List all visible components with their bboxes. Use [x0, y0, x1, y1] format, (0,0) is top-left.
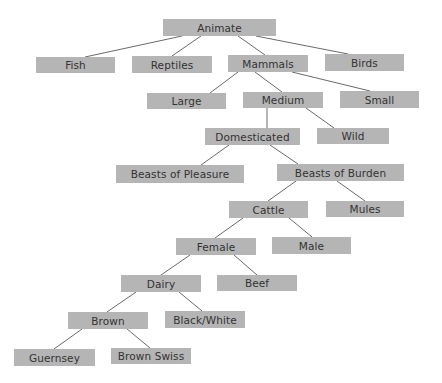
node-mammals: Mammals [228, 55, 308, 72]
edge-brown-to-guernsey [54, 329, 82, 349]
node-medium: Medium [243, 92, 323, 108]
node-black-white: Black/White [165, 311, 245, 328]
edge-beasts_burden-to-cattle [268, 181, 296, 201]
classification-tree-diagram: AnimateFishReptilesMammalsBirdsLargeMedi… [0, 0, 442, 383]
edge-animate-to-fish [85, 36, 182, 57]
node-mules: Mules [326, 201, 404, 217]
node-guernsey: Guernsey [14, 349, 95, 366]
node-birds: Birds [325, 54, 404, 71]
edge-female-to-beef [234, 255, 257, 275]
node-large: Large [147, 93, 226, 109]
node-fish: Fish [36, 57, 115, 73]
node-brown-swiss: Brown Swiss [111, 348, 191, 364]
edge-dairy-to-brown [107, 292, 136, 312]
node-cattle: Cattle [229, 201, 308, 218]
node-beasts-burden: Beasts of Burden [277, 164, 404, 181]
node-beasts-pleasure: Beasts of Pleasure [116, 165, 244, 183]
node-small: Small [340, 91, 419, 108]
edge-brown-to-brown_swiss [127, 329, 150, 348]
node-wild: Wild [317, 128, 389, 144]
node-brown: Brown [68, 312, 148, 329]
node-reptiles: Reptiles [132, 56, 212, 73]
edge-female-to-dairy [161, 255, 190, 275]
edge-mammals-to-medium [255, 72, 282, 92]
edge-mammals-to-small [292, 72, 370, 91]
edge-cattle-to-female [215, 218, 243, 238]
edge-cattle-to-male [289, 218, 312, 237]
node-male: Male [272, 237, 351, 254]
node-dairy: Dairy [121, 275, 201, 292]
edge-medium-to-wild [306, 108, 334, 128]
edge-animate-to-birds [256, 36, 348, 54]
edge-beasts_burden-to-mules [337, 181, 365, 201]
edge-animate-to-reptiles [172, 36, 201, 56]
edge-domesticated-to-beasts_burden [270, 145, 298, 164]
node-female: Female [176, 238, 256, 255]
edge-domesticated-to-beasts_pleasure [201, 145, 229, 165]
edge-dairy-to-black_white [179, 292, 202, 311]
node-beef: Beef [217, 275, 297, 291]
edge-animate-to-mammals [238, 36, 265, 55]
node-domesticated: Domesticated [205, 128, 300, 145]
edge-mammals-to-large [210, 72, 238, 93]
node-animate: Animate [163, 19, 276, 36]
